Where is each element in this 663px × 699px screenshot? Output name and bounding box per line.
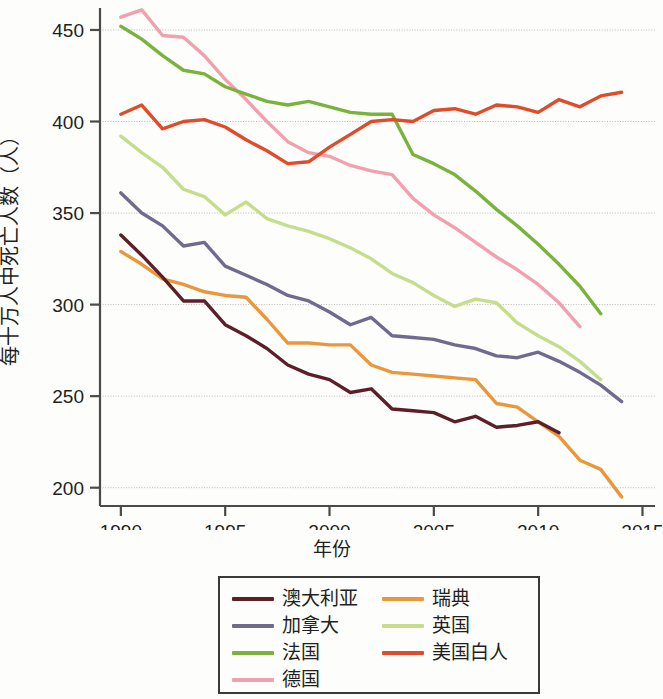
- series-line-德国: [121, 10, 580, 327]
- legend-label: 加拿大: [282, 616, 339, 636]
- legend-item[interactable]: 英国: [382, 612, 532, 639]
- legend-item[interactable]: 澳大利亚: [232, 585, 382, 612]
- y-axis-tick-label: 250: [52, 386, 84, 407]
- legend-item[interactable]: 德国: [232, 666, 382, 693]
- legend-color-swatch: [232, 624, 274, 628]
- legend-label: 英国: [432, 616, 470, 636]
- y-axis-tick-label: 400: [52, 112, 84, 133]
- legend-label: 澳大利亚: [282, 589, 358, 609]
- legend-label: 法国: [282, 643, 320, 663]
- x-axis-tick-label: 2000: [308, 521, 350, 530]
- line-chart-plot: 2002503003504004501990199520002005201020…: [0, 0, 663, 530]
- legend-color-swatch: [382, 651, 424, 655]
- y-axis-tick-label: 300: [52, 295, 84, 316]
- x-axis-tick-label: 2015: [621, 521, 663, 530]
- y-axis-tick-label: 450: [52, 20, 84, 41]
- x-axis-tick-label: 2005: [413, 521, 455, 530]
- legend-color-swatch: [382, 624, 424, 628]
- y-axis-title: 每十万人中死亡人数（人）: [0, 86, 23, 406]
- legend-label: 德国: [282, 670, 320, 690]
- legend-item[interactable]: 美国白人: [382, 639, 532, 666]
- legend-label: 瑞典: [432, 589, 470, 609]
- series-line-美国白人: [121, 92, 622, 163]
- chart-figure: 2002503003504004501990199520002005201020…: [0, 0, 663, 699]
- legend-color-swatch: [232, 651, 274, 655]
- legend-item[interactable]: 法国: [232, 639, 382, 666]
- series-line-法国: [121, 26, 601, 313]
- x-axis-tick-label: 1995: [204, 521, 246, 530]
- legend-item[interactable]: 瑞典: [382, 585, 532, 612]
- legend-color-swatch: [382, 597, 424, 601]
- x-axis-tick-label: 2010: [517, 521, 559, 530]
- x-axis-tick-label: 1990: [100, 521, 142, 530]
- series-line-加拿大: [121, 193, 622, 402]
- x-axis-title: 年份: [0, 534, 663, 561]
- y-axis-tick-label: 200: [52, 478, 84, 499]
- legend-color-swatch: [232, 597, 274, 601]
- legend-grid: 澳大利亚瑞典加拿大英国法国美国白人德国: [232, 585, 532, 693]
- series-line-英国: [121, 136, 601, 380]
- legend-label: 美国白人: [432, 643, 508, 663]
- series-line-澳大利亚: [121, 235, 559, 433]
- legend-item[interactable]: 加拿大: [232, 612, 382, 639]
- series-line-瑞典: [121, 252, 622, 497]
- y-axis-tick-label: 350: [52, 203, 84, 224]
- legend-color-swatch: [232, 678, 274, 682]
- chart-legend: 澳大利亚瑞典加拿大英国法国美国白人德国: [218, 576, 540, 694]
